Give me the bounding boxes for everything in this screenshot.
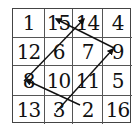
cell-r1-c1: 1 [13,9,45,38]
cell-r4-c3: 2 [73,96,103,124]
cell-r2-c3: 7 [73,38,103,66]
cell-r3-c2: 10 [45,66,73,96]
cell-r1-c3: 14 [73,9,103,38]
magic-square-grid: 1 15 14 4 12 6 7 9 8 10 11 5 13 3 2 16 [12,8,131,123]
cell-r4-c2: 3 [45,96,73,124]
cell-r3-c4: 5 [103,66,132,96]
cell-r4-c1: 13 [13,96,45,124]
cell-r3-c1: 8 [13,66,45,96]
cell-r1-c2: 15 [45,9,73,38]
cell-r2-c4: 9 [103,38,132,66]
cell-r3-c3: 11 [73,66,103,96]
cell-r2-c1: 12 [13,38,45,66]
cell-r4-c4: 16 [103,96,132,124]
cell-r2-c2: 6 [45,38,73,66]
cell-r1-c4: 4 [103,9,132,38]
